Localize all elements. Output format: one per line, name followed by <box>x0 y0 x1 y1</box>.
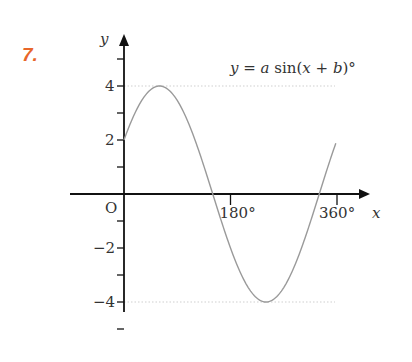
y-axis-arrow-icon <box>119 34 129 46</box>
y-tick-label: −4 <box>93 293 115 311</box>
y-tick-label: 4 <box>105 77 115 95</box>
x-tick-label-360: 360° <box>319 204 355 222</box>
y-axis-label: y <box>99 30 109 48</box>
y-tick-label: −2 <box>93 239 115 257</box>
axis-labels: yxO180°360°42−2−4 <box>93 30 381 311</box>
origin-label: O <box>105 199 117 217</box>
x-axis-label: x <box>372 204 381 222</box>
y-tick-label: 2 <box>105 131 115 149</box>
x-axis-arrow-icon <box>359 189 370 199</box>
sine-graph: yxO180°360°42−2−4 <box>0 0 412 362</box>
x-tick-label-180: 180° <box>220 204 256 222</box>
axes <box>70 34 370 312</box>
